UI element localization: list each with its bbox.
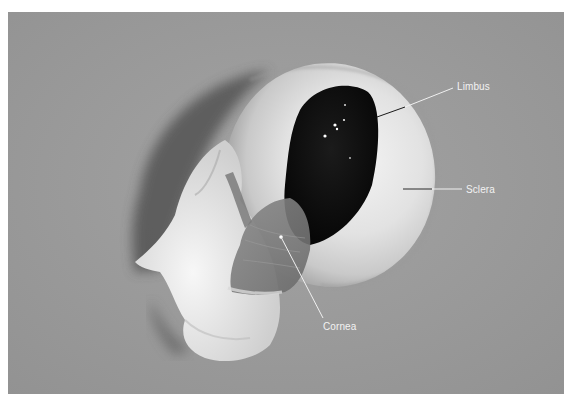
label-sclera: Sclera (466, 184, 495, 196)
label-limbus: Limbus (457, 81, 490, 93)
eyeball-illustration (8, 12, 564, 394)
specimen-photo (8, 12, 564, 394)
label-cornea: Cornea (323, 321, 356, 333)
